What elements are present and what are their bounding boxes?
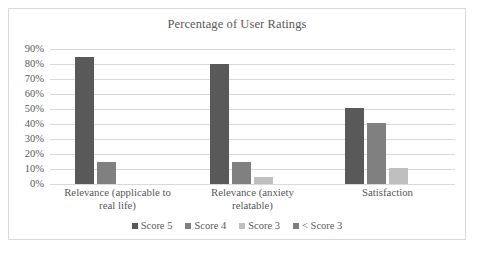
bar[interactable] [232, 162, 251, 185]
bar[interactable] [210, 64, 229, 184]
legend-item[interactable]: Score 5 [132, 220, 173, 231]
legend-swatch-icon [132, 223, 138, 229]
bar[interactable] [97, 162, 116, 185]
legend-swatch-icon [239, 223, 245, 229]
bar[interactable] [254, 177, 273, 185]
legend-label: Score 4 [194, 220, 226, 231]
legend-label: < Score 3 [302, 220, 342, 231]
y-axis-tick-label: 10% [25, 164, 44, 175]
x-axis-label-line: real life) [50, 199, 185, 212]
y-axis-tick-label: 60% [25, 89, 44, 100]
x-axis-label-line: relatable) [185, 199, 320, 212]
bar-group [50, 49, 185, 184]
legend-label: Score 5 [141, 220, 173, 231]
y-axis-tick-label: 90% [25, 44, 44, 55]
y-axis-tick-label: 50% [25, 104, 44, 115]
y-axis-tick-label: 70% [25, 74, 44, 85]
legend-swatch-icon [293, 223, 299, 229]
legend-label: Score 3 [248, 220, 280, 231]
x-axis-category-label: Relevance (applicable toreal life) [50, 186, 185, 211]
bar[interactable] [345, 108, 364, 185]
plot-area [50, 49, 455, 184]
y-axis-tick-label: 80% [25, 59, 44, 70]
chart-legend: Score 5Score 4Score 3< Score 3 [9, 220, 465, 231]
y-axis: 90%80%70%60%50%40%30%20%10%0% [9, 49, 47, 184]
y-axis-tick-label: 40% [25, 119, 44, 130]
bar[interactable] [367, 123, 386, 185]
legend-item[interactable]: < Score 3 [293, 220, 342, 231]
x-axis: Relevance (applicable toreal life)Releva… [50, 186, 455, 216]
gridline-0 [50, 184, 455, 185]
y-axis-tick-label: 0% [30, 179, 44, 190]
y-axis-tick-label: 30% [25, 134, 44, 145]
bar[interactable] [75, 57, 94, 185]
bar-group [320, 49, 455, 184]
chart-title: Percentage of User Ratings [9, 17, 465, 32]
chart-frame: Percentage of User Ratings 90%80%70%60%5… [8, 8, 466, 240]
legend-item[interactable]: Score 4 [185, 220, 226, 231]
x-axis-category-label: Relevance (anxietyrelatable) [185, 186, 320, 211]
bar[interactable] [389, 168, 408, 185]
legend-swatch-icon [185, 223, 191, 229]
x-axis-label-line: Relevance (anxiety [185, 186, 320, 199]
y-axis-tick-label: 20% [25, 149, 44, 160]
legend-item[interactable]: Score 3 [239, 220, 280, 231]
x-axis-category-label: Satisfaction [320, 186, 455, 199]
x-axis-label-line: Relevance (applicable to [50, 186, 185, 199]
x-axis-label-line: Satisfaction [320, 186, 455, 199]
bar-group [185, 49, 320, 184]
